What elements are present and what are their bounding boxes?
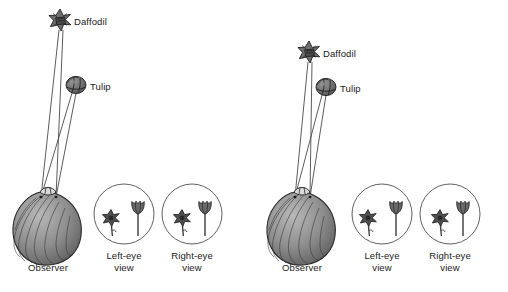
left-eye-view-label-line2: view <box>114 262 133 273</box>
left-eye-view-circle <box>94 184 154 244</box>
right-panel: Daffodil Tulip Observer Left-eye view Ri… <box>254 0 508 292</box>
left-eye-view-panel <box>352 184 412 244</box>
left-panel: Daffodil Tulip Observer Left-eye view Ri… <box>0 0 254 292</box>
right-eye-view-label: Right-eye view <box>152 250 232 273</box>
right-eye-marker <box>55 196 58 198</box>
sightlines <box>41 30 76 197</box>
daffodil-icon <box>49 9 71 31</box>
left-eye-view-label-line1: Left-eye <box>364 250 399 261</box>
right-eye-view-label-line1: Right-eye <box>171 250 213 261</box>
right-eye-view-label-line2: view <box>182 262 201 273</box>
right-eye-view-label-line1: Right-eye <box>429 250 471 261</box>
left-eye-view-circle <box>352 184 412 244</box>
tulip-icon <box>66 76 86 93</box>
tulip-label: Tulip <box>90 81 111 92</box>
left-panel-graphic <box>0 0 254 292</box>
tulip-icon <box>316 78 336 95</box>
sightline-right-eye-tulip <box>56 93 76 197</box>
left-eye-marker <box>294 196 297 198</box>
observer-label: Observer <box>8 262 88 273</box>
sightline-right-eye-daffodil <box>310 62 312 197</box>
right-eye-view-label: Right-eye view <box>410 250 490 273</box>
left-eye-view-label-line1: Left-eye <box>106 250 141 261</box>
right-eye-view-circle <box>420 184 480 244</box>
daffodil-icon <box>298 41 320 63</box>
sightline-left-eye-daffodil <box>41 30 59 197</box>
right-eye-view-label-line2: view <box>440 262 459 273</box>
binocular-disparity-figure: Daffodil Tulip Observer Left-eye view Ri… <box>0 0 508 292</box>
right-eye-view-circle <box>162 184 222 244</box>
right-eye-view-panel <box>420 184 480 244</box>
observer-head <box>13 187 81 265</box>
left-eye-marker <box>40 196 43 198</box>
tulip-label: Tulip <box>340 83 361 94</box>
left-eye-view-panel <box>94 184 154 244</box>
sightline-right-eye-daffodil <box>56 30 63 197</box>
sightline-left-eye-daffodil <box>295 62 308 197</box>
observer-head <box>267 187 335 265</box>
right-eye-marker <box>309 196 312 198</box>
observer-label: Observer <box>262 262 342 273</box>
right-panel-graphic <box>254 0 508 292</box>
daffodil-label: Daffodil <box>74 16 107 27</box>
left-eye-view-label-line2: view <box>372 262 391 273</box>
right-eye-view-panel <box>162 184 222 244</box>
daffodil-label: Daffodil <box>323 48 356 59</box>
